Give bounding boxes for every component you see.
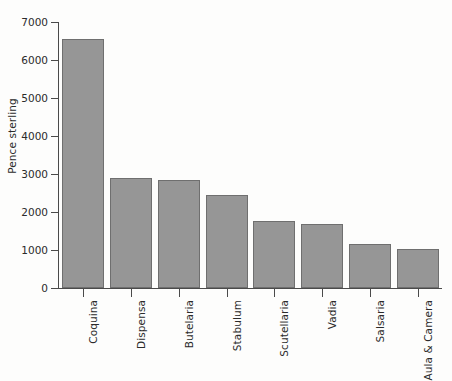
x-axis-tick <box>227 289 228 297</box>
y-axis-tick <box>51 22 58 23</box>
x-axis-tick-label: Aula & Camera <box>422 300 434 381</box>
bar <box>110 178 152 288</box>
y-axis-tick-label: 7000 <box>4 16 48 28</box>
bar <box>397 249 439 288</box>
x-axis-tick-label: Butelaria <box>183 300 195 348</box>
x-axis-tick <box>370 289 371 297</box>
bar <box>158 180 200 288</box>
y-axis-tick <box>51 288 58 289</box>
y-axis-tick-label: 1000 <box>4 244 48 256</box>
bar <box>62 39 104 288</box>
y-axis-tick <box>51 136 58 137</box>
y-axis-tick-label: 6000 <box>4 54 48 66</box>
y-axis-tick <box>51 98 58 99</box>
x-axis-line <box>58 288 442 289</box>
y-axis-tick <box>51 174 58 175</box>
x-axis-tick-label: Dispensa <box>135 300 147 349</box>
bar <box>301 224 343 288</box>
x-axis-tick <box>418 289 419 297</box>
x-axis-tick <box>179 289 180 297</box>
x-axis-tick <box>274 289 275 297</box>
x-axis-tick-label: Coquina <box>87 300 99 344</box>
y-axis-tick-label: 2000 <box>4 206 48 218</box>
x-axis-tick <box>322 289 323 297</box>
bar <box>253 221 295 288</box>
y-axis-tick-label: 0 <box>4 282 48 294</box>
y-axis-tick-label: 3000 <box>4 168 48 180</box>
x-axis-tick-label: Scutellaria <box>278 300 290 357</box>
y-axis-tick <box>51 212 58 213</box>
x-axis-tick-label: Stabulum <box>231 300 243 351</box>
y-axis-tick-label: 4000 <box>4 130 48 142</box>
y-axis-tick <box>51 250 58 251</box>
x-axis-tick <box>83 289 84 297</box>
bar <box>349 244 391 288</box>
bar <box>206 195 248 288</box>
x-axis-tick-label: Salsaria <box>374 300 386 342</box>
y-axis-tick <box>51 60 58 61</box>
y-axis-tick-label: 5000 <box>4 92 48 104</box>
plot-area <box>59 22 442 288</box>
x-axis-tick-label: Vadia <box>326 300 338 329</box>
x-axis-tick <box>131 289 132 297</box>
